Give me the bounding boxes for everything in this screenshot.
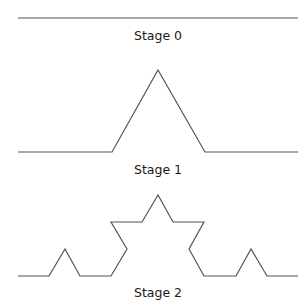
stage-1-label: Stage 1 [0, 162, 308, 177]
stage-1-curve [18, 70, 298, 152]
koch-diagram [0, 0, 308, 308]
stage-2-curve [18, 195, 298, 276]
stage-0-label: Stage 0 [0, 28, 308, 43]
stage-2-label: Stage 2 [0, 285, 308, 300]
